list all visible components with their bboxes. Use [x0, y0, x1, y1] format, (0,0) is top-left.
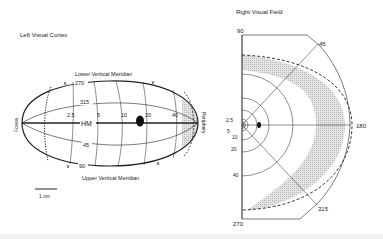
radius-label-40: 40	[233, 172, 239, 178]
cortex-map	[22, 80, 202, 170]
meridian-label-hm: HM	[81, 120, 92, 127]
angle-label-315: 315	[318, 206, 329, 212]
visual-field-map	[242, 35, 352, 219]
upper-vertical-meridian-label: Upper Vertical Meridian	[82, 175, 139, 181]
angle-label-90: 90	[237, 28, 244, 34]
lesion-spot	[136, 116, 144, 127]
radius-label-5: 5	[227, 128, 230, 134]
ecc-label-20: 20	[145, 112, 151, 118]
periphery-label: Periphery	[201, 112, 207, 134]
lower-vertical-meridian-label: Lower Vertical Meridian	[75, 71, 132, 77]
radius-label-2-5: 2.5	[226, 117, 233, 123]
meridian-45	[22, 123, 198, 145]
field-defect-shading	[242, 55, 345, 211]
radius-label-20: 20	[231, 146, 237, 152]
ecc-label-40: 40	[172, 112, 178, 118]
angle-label-45: 45	[319, 41, 326, 47]
meridian-label-270: 270	[75, 80, 84, 86]
footer-strip	[0, 234, 383, 239]
angle-label-270: 270	[233, 221, 244, 227]
scale-bar-label: 1 cm	[39, 193, 50, 199]
scotoma-spot	[257, 122, 261, 128]
angle-label-180: 180	[356, 123, 367, 129]
diagram-canvas: Lower Vertical Meridian Upper Vertical M…	[0, 0, 383, 239]
radius-label-10: 10	[232, 134, 238, 140]
meridian-label-315: 315	[80, 99, 89, 105]
fovea-label: Fovea	[13, 118, 19, 132]
ecc-label-5: 5	[97, 112, 100, 118]
iso-eccentricity-dotted	[45, 87, 51, 161]
ecc-label-10: 10	[121, 112, 127, 118]
ecc-label-2-5: 2.5	[67, 112, 75, 118]
meridian-label-45: 45	[83, 142, 89, 148]
meridian-label-90: 90	[79, 163, 85, 169]
